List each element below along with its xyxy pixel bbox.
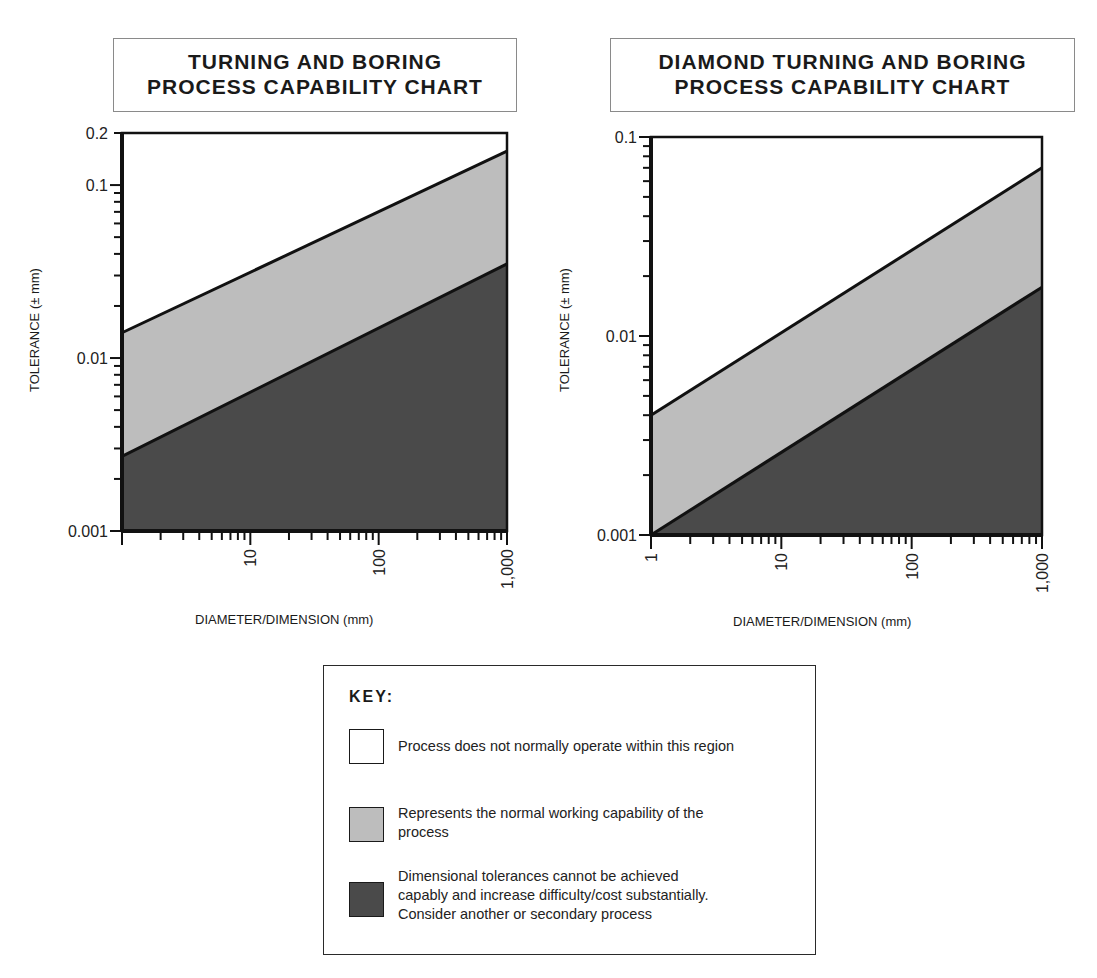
x-tick-label: 10 bbox=[773, 553, 790, 571]
legend-key: KEY: Process does not normally operate w… bbox=[323, 665, 816, 955]
key-item-not-operate: Process does not normally operate within… bbox=[349, 729, 734, 764]
key-item-normal-capability: Represents the normal working capability… bbox=[349, 807, 703, 842]
x-tick-label: 1,000 bbox=[499, 549, 516, 589]
x-tick-label: 100 bbox=[371, 549, 388, 576]
chart2-x-axis-label: DIAMETER/DIMENSION (mm) bbox=[733, 614, 911, 629]
key-item-text-line: Dimensional tolerances cannot be achieve… bbox=[398, 867, 709, 886]
x-tick-label: 10 bbox=[242, 549, 259, 567]
key-item-text-line: capably and increase difficulty/cost sub… bbox=[398, 886, 709, 905]
chart2-plot: 0.0010.010.11101001,000 bbox=[597, 129, 1051, 593]
chart2-y-axis-label: TOLERANCE (± mm) bbox=[557, 230, 573, 430]
y-tick-label: 0.001 bbox=[68, 523, 108, 540]
white-swatch-icon bbox=[349, 729, 384, 764]
dark-gray-swatch-icon bbox=[349, 882, 384, 917]
key-item-text-line: process bbox=[398, 823, 703, 842]
key-item-text: Represents the normal working capability… bbox=[398, 804, 703, 842]
key-item-not-achievable: Dimensional tolerances cannot be achieve… bbox=[349, 882, 709, 924]
y-tick-label: 0.1 bbox=[86, 177, 108, 194]
x-tick-label: 100 bbox=[904, 553, 921, 580]
y-tick-label: 0.01 bbox=[77, 350, 108, 367]
chart1-x-axis-label: DIAMETER/DIMENSION (mm) bbox=[195, 612, 373, 627]
key-item-text: Dimensional tolerances cannot be achieve… bbox=[398, 867, 709, 924]
chart1-y-axis-label: TOLERANCE (± mm) bbox=[27, 230, 43, 430]
key-item-text-line: Consider another or secondary process bbox=[398, 905, 709, 924]
key-title: KEY: bbox=[349, 688, 394, 706]
x-tick-label: 1 bbox=[643, 553, 660, 562]
charts-canvas: 0.0010.010.10.2101001,000 0.0010.010.111… bbox=[0, 0, 1097, 660]
y-tick-label: 0.001 bbox=[597, 527, 637, 544]
key-item-text: Process does not normally operate within… bbox=[398, 737, 734, 756]
key-item-text-line: Represents the normal working capability… bbox=[398, 804, 703, 823]
y-tick-label: 0.01 bbox=[606, 328, 637, 345]
x-tick-label: 1,000 bbox=[1034, 553, 1051, 593]
y-tick-label: 0.1 bbox=[615, 129, 637, 146]
light-gray-swatch-icon bbox=[349, 807, 384, 842]
y-tick-label: 0.2 bbox=[86, 125, 108, 142]
chart1-plot: 0.0010.010.10.2101001,000 bbox=[68, 125, 516, 589]
